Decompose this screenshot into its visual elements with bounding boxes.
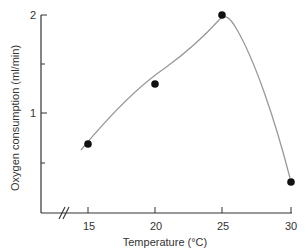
data-point — [84, 140, 92, 148]
x-axis-title: Temperature (°C) — [123, 236, 207, 248]
y-tick-label: 2 — [30, 9, 36, 21]
chart: 2 1 15 20 25 30 Temperature (°C) Oxygen … — [0, 0, 307, 251]
y-tick-label: 1 — [30, 107, 36, 119]
y-axis-title: Oxygen consumption (ml/min) — [9, 45, 21, 191]
data-point — [151, 80, 159, 88]
x-tick-label: 30 — [285, 220, 297, 232]
x-tick-label: 20 — [150, 220, 162, 232]
data-point — [218, 11, 226, 19]
fitted-curve — [81, 17, 290, 178]
data-point — [287, 178, 295, 186]
x-tick-label: 15 — [83, 220, 95, 232]
x-tick-label: 25 — [217, 220, 229, 232]
